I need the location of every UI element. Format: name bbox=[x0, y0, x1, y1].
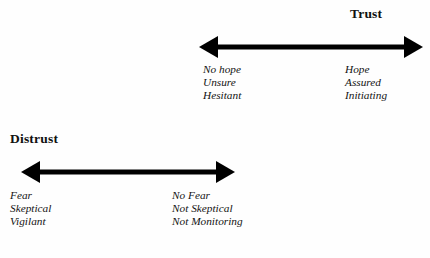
distrust-scale-title: Distrust bbox=[10, 132, 58, 146]
trust-low-pole-labels: No hope Unsure Hesitant bbox=[203, 63, 241, 103]
trust-high-pole-line-1: Hope bbox=[345, 63, 387, 76]
trust-low-pole-line-1: No hope bbox=[203, 63, 241, 76]
distrust-high-pole-line-2: Skeptical bbox=[10, 202, 51, 215]
trust-distrust-continuum-diagram: Trust No hope Unsure Hesitant Hope Assur… bbox=[0, 0, 430, 258]
trust-high-pole-line-2: Assured bbox=[345, 76, 387, 89]
trust-scale-title: Trust bbox=[350, 7, 382, 21]
trust-high-pole-line-3: Initiating bbox=[345, 89, 387, 102]
trust-high-pole-labels: Hope Assured Initiating bbox=[345, 63, 387, 103]
distrust-low-pole-labels: No Fear Not Skeptical Not Monitoring bbox=[172, 189, 243, 229]
trust-low-pole-line-3: Hesitant bbox=[203, 89, 241, 102]
distrust-low-pole-line-1: No Fear bbox=[172, 189, 243, 202]
distrust-double-arrow bbox=[21, 159, 235, 185]
trust-low-pole-line-2: Unsure bbox=[203, 76, 241, 89]
distrust-high-pole-line-1: Fear bbox=[10, 189, 51, 202]
distrust-high-pole-line-3: Vigilant bbox=[10, 215, 51, 228]
trust-double-arrow bbox=[199, 34, 423, 60]
distrust-high-pole-labels: Fear Skeptical Vigilant bbox=[10, 189, 51, 229]
distrust-low-pole-line-2: Not Skeptical bbox=[172, 202, 243, 215]
distrust-low-pole-line-3: Not Monitoring bbox=[172, 215, 243, 228]
